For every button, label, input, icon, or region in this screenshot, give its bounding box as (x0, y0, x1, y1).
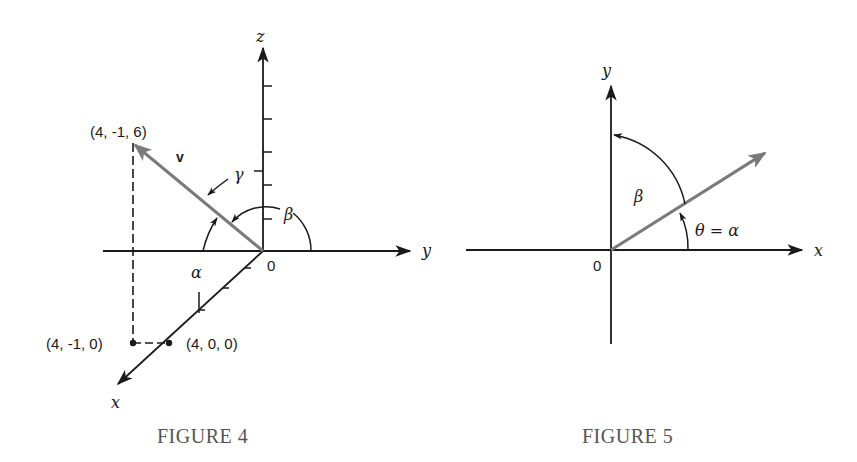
figure-4: z y x 0 (4, -1, 6) v γ β α (4, -1, 0) (4… (46, 27, 432, 447)
alpha-label: α (191, 263, 202, 282)
beta-arc (614, 135, 685, 204)
z-axis-label: z (255, 27, 265, 46)
y-axis-label: y (601, 61, 612, 80)
x-axis-label: x (814, 241, 823, 260)
point-label-4-0-0: (4, 0, 0) (186, 335, 238, 352)
gamma-arrow (208, 179, 228, 195)
origin-label: 0 (593, 257, 601, 274)
vector-tip-label: (4, -1, 6) (90, 123, 147, 140)
point-label-4-neg1-0: (4, -1, 0) (46, 335, 103, 352)
point-4-0-0 (166, 340, 172, 346)
figure-4-caption: FIGURE 4 (157, 425, 248, 447)
figure-5-caption: FIGURE 5 (582, 425, 673, 447)
x-axis-label: x (111, 393, 120, 412)
y-axis-label: y (421, 241, 432, 260)
vector-v (135, 145, 263, 251)
theta-alpha-label: θ = α (695, 221, 739, 240)
origin-label: 0 (267, 257, 275, 274)
figure-5: y x 0 β θ = α FIGURE 5 (466, 61, 823, 447)
beta-arrow (232, 207, 280, 222)
vector-label: v (176, 149, 184, 165)
beta-arc (293, 213, 311, 251)
theta-alpha-arc (680, 213, 688, 250)
beta-label: β (633, 187, 643, 206)
beta-label: β (283, 205, 293, 224)
alpha-arrow (203, 218, 217, 251)
point-4-neg1-0 (130, 340, 136, 346)
gamma-label: γ (234, 165, 244, 184)
diagram-canvas: z y x 0 (4, -1, 6) v γ β α (4, -1, 0) (4… (0, 0, 857, 462)
